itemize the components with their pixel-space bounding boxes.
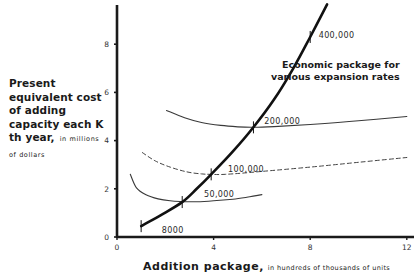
y-tick-label: 8	[104, 40, 109, 49]
x-axis-title: Addition package,in hundreds of thousand…	[143, 255, 390, 274]
curve-label: 50,000	[204, 190, 234, 199]
curve-label: 100,000	[228, 165, 264, 174]
x-tick-label: 8	[308, 243, 313, 252]
curve-label: 8000	[162, 226, 184, 235]
y-axis-title-main: Present equivalent cost of adding capaci…	[9, 77, 103, 143]
x-axis-title-main: Addition package,	[143, 260, 264, 273]
axes: 0246804812	[104, 5, 414, 252]
annotation-line-2: various expansion rates	[271, 71, 400, 83]
y-tick-label: 0	[104, 233, 109, 242]
y-tick-label: 2	[104, 185, 109, 194]
x-tick-label: 4	[211, 243, 216, 252]
y-tick-label: 4	[104, 136, 109, 145]
economic-package-annotation: Economic package for various expansion r…	[271, 59, 400, 83]
x-tick-label: 0	[115, 243, 120, 252]
y-tick-label: 6	[104, 88, 109, 97]
curve-label: 400,000	[319, 31, 355, 40]
x-axis-title-unit: in hundreds of thousands of units	[268, 264, 390, 272]
series-100-000	[142, 153, 406, 175]
x-tick-label: 12	[402, 243, 412, 252]
annotation-line-1: Economic package for	[271, 59, 400, 71]
curve-label: 200,000	[264, 117, 300, 126]
y-axis-title: Present equivalent cost of adding capaci…	[9, 76, 104, 161]
